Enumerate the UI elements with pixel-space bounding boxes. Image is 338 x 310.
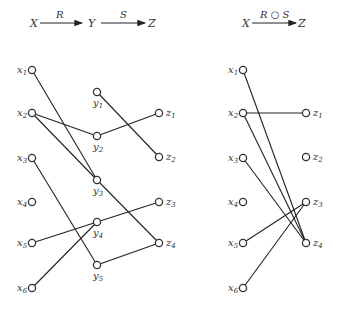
node-label: z3 bbox=[312, 196, 323, 209]
node-label: z1 bbox=[312, 107, 323, 120]
right-rs-edge-x6-z3 bbox=[243, 202, 306, 288]
left-node-x2: x2 bbox=[17, 107, 36, 120]
node-label: x5 bbox=[17, 237, 28, 250]
node-circle bbox=[93, 88, 100, 95]
node-circle bbox=[155, 239, 162, 246]
left-node-y1: y1 bbox=[92, 88, 103, 110]
right-node-x2: x2 bbox=[228, 107, 247, 120]
node-circle bbox=[28, 284, 35, 291]
node-circle bbox=[302, 198, 309, 205]
node-label: y4 bbox=[92, 227, 103, 240]
right-rs-edge-x1-z4 bbox=[243, 70, 306, 243]
node-label: z2 bbox=[165, 151, 176, 164]
node-label: x3 bbox=[17, 152, 28, 165]
node-circle bbox=[302, 109, 309, 116]
node-label: z3 bbox=[165, 196, 176, 209]
left-node-z3: z3 bbox=[155, 196, 176, 209]
node-label: z2 bbox=[312, 151, 323, 164]
right-header-x: X bbox=[241, 17, 251, 30]
node-circle bbox=[93, 132, 100, 139]
node-circle bbox=[28, 154, 35, 161]
left-node-x6: x6 bbox=[17, 282, 36, 295]
node-circle bbox=[93, 218, 100, 225]
left-node-x1: x1 bbox=[17, 64, 36, 77]
node-circle bbox=[239, 239, 246, 246]
right-rs-edge-x2-z4 bbox=[243, 113, 306, 243]
right-node-x3: x3 bbox=[228, 152, 247, 165]
left-header-x: X bbox=[29, 17, 39, 30]
relation-rs-label: R ○ S bbox=[259, 9, 290, 20]
left-r-edge-x2-y3 bbox=[32, 113, 97, 180]
node-label: y1 bbox=[92, 97, 103, 110]
left-r-edge-x6-y4 bbox=[32, 222, 97, 288]
node-label: z4 bbox=[165, 237, 176, 250]
node-circle bbox=[93, 176, 100, 183]
node-label: x1 bbox=[17, 64, 27, 77]
right-node-x6: x6 bbox=[228, 282, 247, 295]
node-label: x3 bbox=[228, 152, 239, 165]
right-header: X R ○ S Z bbox=[241, 9, 306, 30]
right-node-z4: z4 bbox=[302, 237, 322, 250]
left-node-y5: y5 bbox=[92, 261, 104, 283]
left-s-edge-y2-z1 bbox=[97, 113, 159, 136]
node-circle bbox=[28, 109, 35, 116]
node-circle bbox=[239, 284, 246, 291]
node-circle bbox=[239, 198, 246, 205]
left-header-z: Z bbox=[147, 17, 156, 30]
node-label: y2 bbox=[92, 141, 104, 154]
node-label: x2 bbox=[228, 107, 239, 120]
node-label: x2 bbox=[17, 107, 28, 120]
left-header: X R Y S Z bbox=[29, 9, 156, 30]
node-label: z4 bbox=[312, 237, 323, 250]
node-label: z1 bbox=[165, 107, 176, 120]
left-s-edge-y4-z3 bbox=[97, 202, 159, 222]
right-rs-edge-x3-z4 bbox=[243, 158, 306, 243]
relation-s-label: S bbox=[120, 9, 127, 20]
node-circle bbox=[28, 198, 35, 205]
node-label: x5 bbox=[228, 237, 239, 250]
node-label: x4 bbox=[17, 196, 27, 209]
left-s-edge-y5-z4 bbox=[97, 243, 159, 265]
node-label: x6 bbox=[228, 282, 239, 295]
node-label: y5 bbox=[92, 270, 104, 283]
right-node-z2: z2 bbox=[302, 151, 323, 164]
node-circle bbox=[155, 109, 162, 116]
relation-r-label: R bbox=[55, 9, 64, 20]
node-label: x6 bbox=[17, 282, 28, 295]
node-circle bbox=[28, 66, 35, 73]
node-label: x4 bbox=[228, 196, 238, 209]
left-node-y2: y2 bbox=[92, 132, 104, 154]
left-node-x4: x4 bbox=[17, 196, 36, 209]
left-node-y3: y3 bbox=[92, 176, 104, 198]
left-node-y4: y4 bbox=[92, 218, 103, 240]
node-circle bbox=[239, 154, 246, 161]
right-node-x4: x4 bbox=[228, 196, 247, 209]
relation-composition-diagram: X R Y S Z X R ○ S Z x1x2x3x4x5x6y1y2y3y4… bbox=[0, 0, 338, 310]
node-label: x1 bbox=[228, 64, 238, 77]
right-node-x1: x1 bbox=[228, 64, 247, 77]
node-circle bbox=[155, 198, 162, 205]
right-header-z: Z bbox=[297, 17, 306, 30]
left-node-z2: z2 bbox=[155, 151, 176, 164]
left-node-x3: x3 bbox=[17, 152, 36, 165]
node-circle bbox=[28, 239, 35, 246]
left-header-y: Y bbox=[88, 17, 97, 30]
right-node-x5: x5 bbox=[228, 237, 247, 250]
left-r-edge-x2-y2 bbox=[32, 113, 97, 136]
node-circle bbox=[155, 153, 162, 160]
node-circle bbox=[302, 153, 309, 160]
left-node-z1: z1 bbox=[155, 107, 175, 120]
left-node-x5: x5 bbox=[17, 237, 36, 250]
right-node-z3: z3 bbox=[302, 196, 323, 209]
node-circle bbox=[302, 239, 309, 246]
left-node-z4: z4 bbox=[155, 237, 175, 250]
right-node-z1: z1 bbox=[302, 107, 322, 120]
left-r-edge-x3-y5 bbox=[32, 158, 97, 265]
node-circle bbox=[239, 109, 246, 116]
node-label: y3 bbox=[92, 185, 104, 198]
node-circle bbox=[239, 66, 246, 73]
node-circle bbox=[93, 261, 100, 268]
